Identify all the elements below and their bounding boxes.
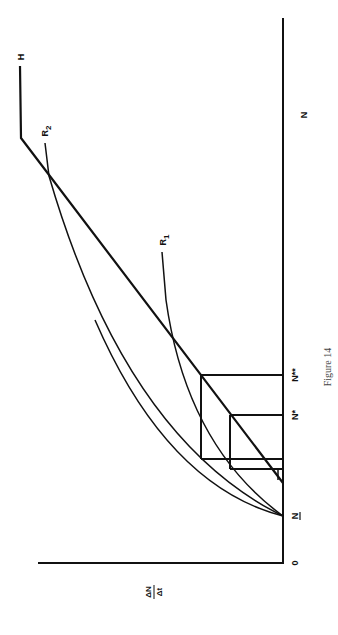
label-nss: N** [290,368,300,382]
figure-caption: Figure 14 [322,348,333,387]
diagram-canvas: H R2 R1 N N** N* N 0 ΔN Δt Figure 14 [0,0,338,635]
label-ns: N* [290,410,300,420]
label-h: H [16,54,26,61]
label-n-axis: N [299,112,309,119]
label-origin: 0 [290,560,300,565]
label-nbar: N [290,513,300,520]
label-r2: R2 [40,125,53,137]
label-r1: R1 [158,234,171,246]
label-rate-axis: ΔN Δt [144,585,164,599]
svg-text:ΔN: ΔN [144,586,153,598]
curve-r2-lower-branch [95,320,283,516]
curve-r2 [45,143,283,516]
svg-text:Δt: Δt [155,587,164,596]
